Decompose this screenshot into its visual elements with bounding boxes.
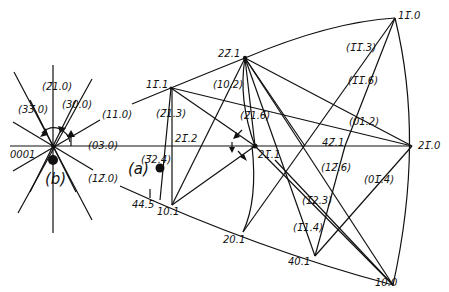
stereographic-projection-diagram: (2̄1.0) (33̄.0) (30.0) (11.0) (03.0) 000… [0, 0, 449, 292]
plane-11-3: (1̄1̄.3) [346, 43, 376, 53]
pole-21-2: 21̄.2 [175, 134, 197, 144]
pole-11-0: 11̄.0 [398, 11, 420, 21]
inset-marker-dot [48, 155, 58, 165]
pole-22-1: 22̄.1 [218, 49, 240, 59]
pole-44-5: 44.5 [132, 200, 154, 210]
pole-40-1: 40.1 [288, 257, 310, 267]
plane-32-4: (3̄2.4) [141, 155, 171, 165]
pole-10-1: 10.1 [157, 207, 179, 217]
pole-20-1: 20.1 [223, 235, 245, 245]
plane-21-6: (2̄1.6) [240, 111, 270, 121]
label-inset-30-0: (30.0) [62, 100, 92, 110]
label-inset-origin: 0001 [10, 150, 35, 160]
label-inset-12-0: (12̄.0) [88, 174, 118, 184]
plane-01-4: (01̄.4) [364, 175, 394, 185]
label-inset-21-0: (2̄1.0) [42, 82, 72, 92]
pole-42-1: 42̄.1 [322, 138, 344, 148]
pole-10-0: 10.0 [375, 278, 397, 288]
plane-10-2: (10.2) [213, 80, 243, 90]
label-b: (b) [45, 172, 66, 187]
diagram-lines [0, 0, 449, 292]
pole-21-0: 21̄.0 [418, 141, 440, 151]
plane-12-3: (1̄2.3) [302, 196, 332, 206]
label-inset-11-0: (11.0) [102, 110, 132, 120]
pole-11-1: 11̄.1 [146, 80, 168, 90]
main-projection [100, 18, 412, 285]
plane-11-4: (1̄1.4) [293, 223, 323, 233]
plane-01-2: (01.2) [349, 117, 379, 127]
label-inset-33-0: (33̄.0) [18, 105, 48, 115]
plane-12-6: (12̄.6) [321, 163, 351, 173]
plane-21-3: (2̄1.3) [156, 109, 186, 119]
pole-21-1: 21̄.1 [258, 150, 280, 160]
label-inset-03-0: (03.0) [88, 141, 118, 151]
plane-11-6: (1̄1̄.6) [348, 76, 378, 86]
